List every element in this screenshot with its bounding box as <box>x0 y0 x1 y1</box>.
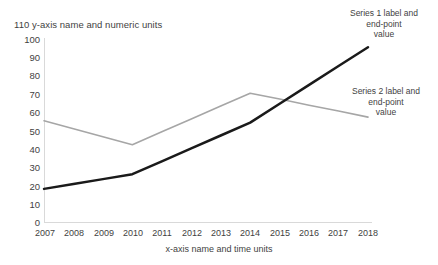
plot-area <box>0 0 438 265</box>
x-tick-2008: 2008 <box>57 228 91 238</box>
x-tick-2011: 2011 <box>145 228 179 238</box>
line-chart: 110 y-axis name and numeric units 100 90… <box>0 0 438 265</box>
x-tick-2014: 2014 <box>233 228 267 238</box>
x-tick-2017: 2017 <box>321 228 355 238</box>
x-tick-2018: 2018 <box>351 228 385 238</box>
series-2-annotation: Series 2 label and end-point value <box>338 86 434 118</box>
series-1-annotation: Series 1 label and end-point value <box>334 8 434 40</box>
x-axis-title: x-axis name and time units <box>0 244 438 254</box>
series-1-line <box>44 47 368 189</box>
series-2-line <box>44 93 368 145</box>
